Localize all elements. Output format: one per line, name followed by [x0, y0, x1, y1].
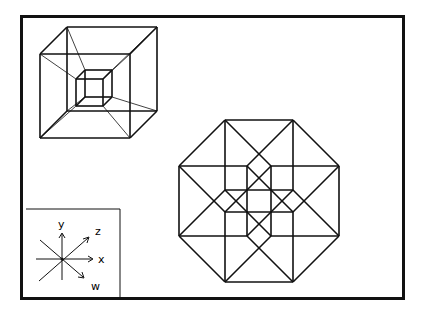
axis-label-y: y [58, 218, 65, 231]
axis-label-z: z [95, 225, 101, 238]
figure-frame [22, 17, 404, 299]
orthographic-tesseract [179, 120, 339, 282]
axis-label-x: x [98, 253, 105, 266]
tesseract-figure: y z x w [0, 0, 425, 313]
legend-box [26, 209, 120, 299]
axis-label-w: w [91, 280, 100, 293]
perspective-tesseract [40, 27, 157, 138]
axes-legend: y z x w [26, 209, 120, 299]
